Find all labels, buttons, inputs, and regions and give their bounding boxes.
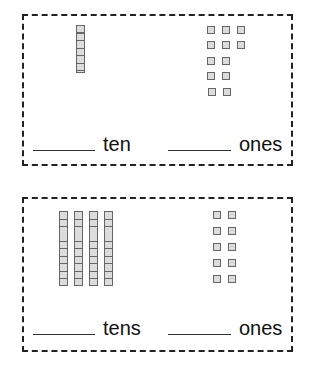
tens-answer-blank[interactable]: [33, 334, 95, 335]
ones-cube: [208, 88, 216, 96]
tens-answer-blank[interactable]: [33, 150, 95, 151]
ones-cube: [213, 259, 221, 267]
ones-answer-blank[interactable]: [168, 334, 231, 335]
ones-cube: [207, 72, 215, 80]
tens-label: ten: [103, 134, 131, 154]
ones-cube: [213, 211, 221, 219]
ones-cube: [228, 211, 236, 219]
tens-rod: [104, 211, 113, 286]
ones-cube: [213, 243, 221, 251]
ones-cube: [228, 243, 236, 251]
tens-rod: [76, 25, 85, 73]
ones-cube: [207, 26, 215, 34]
ones-cube: [237, 41, 245, 49]
ones-label: ones: [239, 318, 282, 338]
ones-cube: [207, 41, 215, 49]
ones-cube: [223, 88, 231, 96]
ones-cube: [222, 41, 230, 49]
ones-cube: [213, 275, 221, 283]
ones-cube: [222, 57, 230, 65]
ones-answer-blank[interactable]: [168, 150, 231, 151]
tens-rod: [59, 211, 68, 286]
tens-rod: [89, 211, 98, 286]
ones-cube: [213, 227, 221, 235]
ones-cube: [237, 26, 245, 34]
ones-cube: [222, 26, 230, 34]
ones-label: ones: [239, 134, 282, 154]
ones-cube: [222, 72, 230, 80]
tens-label: tens: [103, 318, 141, 338]
ones-cube: [207, 57, 215, 65]
tens-rod: [74, 211, 83, 286]
ones-cube: [228, 259, 236, 267]
ones-cube: [228, 275, 236, 283]
ones-cube: [228, 227, 236, 235]
